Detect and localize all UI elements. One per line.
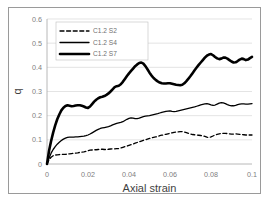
x-tick-label: 0.08 [204,170,218,179]
x-tick-label: 0 [45,170,49,179]
x-tick-label: 0.06 [163,170,177,179]
series-line-c1-2-s7 [47,54,252,164]
series-line-c1-2-s4 [47,103,252,164]
y-tick-label: 0.1 [32,135,42,144]
legend-label-c1-2-s2[interactable]: C1.2 S2 [93,27,117,34]
x-axis-title: Axial strain [123,182,177,193]
chart-plot: 00.10.20.30.40.50.600.020.040.060.080.1A… [9,8,260,193]
chart-frame: 00.10.20.30.40.50.600.020.040.060.080.1A… [8,7,261,194]
x-tick-label: 0.04 [122,170,136,179]
legend-label-c1-2-s4[interactable]: C1.2 S4 [93,39,117,46]
y-tick-label: 0.4 [32,63,42,72]
x-tick-label: 0.1 [247,170,257,179]
y-axis-title: q [11,88,23,94]
y-tick-label: 0 [38,160,42,169]
y-tick-label: 0.3 [32,87,42,96]
legend-label-c1-2-s7[interactable]: C1.2 S7 [93,50,117,57]
x-tick-label: 0.02 [81,170,95,179]
y-tick-label: 0.5 [32,39,42,48]
figure-container: 00.10.20.30.40.50.600.020.040.060.080.1A… [0,0,271,203]
y-tick-label: 0.6 [32,15,42,24]
y-tick-label: 0.2 [32,111,42,120]
